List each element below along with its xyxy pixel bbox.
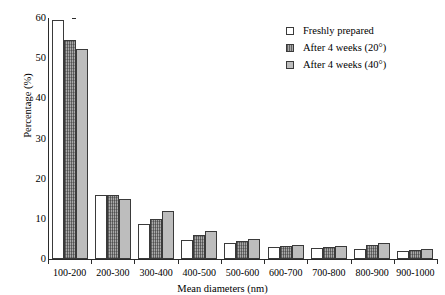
legend-swatch [286, 44, 294, 52]
bar-chart: Percentage (%) 0102030405060 Mean diamet… [0, 0, 445, 295]
x-tick-mark [178, 260, 179, 264]
bar [292, 245, 304, 259]
x-tick-label: 700-800 [312, 267, 345, 278]
bar [268, 247, 280, 259]
legend: Freshly preparedAfter 4 weeks (20°)After… [286, 22, 386, 73]
bar [323, 247, 335, 259]
bar [248, 239, 260, 259]
y-tick-label: 60 [22, 13, 46, 24]
x-tick-mark [394, 260, 395, 264]
bar [236, 241, 248, 259]
legend-item: Freshly prepared [286, 22, 386, 39]
legend-label: After 4 weeks (40°) [303, 59, 386, 70]
x-tick-mark [221, 260, 222, 264]
y-tick-label: 10 [22, 214, 46, 225]
bar [335, 246, 347, 259]
bar [311, 248, 323, 259]
x-axis-line [48, 259, 438, 260]
bar [224, 243, 236, 259]
legend-label: After 4 weeks (20°) [303, 42, 386, 53]
bar [64, 40, 76, 259]
bar [409, 250, 421, 259]
bar [280, 246, 292, 259]
bar [150, 219, 162, 259]
x-tick-mark [307, 260, 308, 264]
bar [354, 249, 366, 259]
bar [378, 243, 390, 259]
x-tick-label: 800-900 [355, 267, 388, 278]
x-tick-mark [134, 260, 135, 264]
x-tick-mark [351, 260, 352, 264]
y-tick-label: 30 [22, 133, 46, 144]
x-tick-mark [437, 260, 438, 264]
y-tick-label: 0 [22, 254, 46, 265]
x-tick-label: 300-400 [139, 267, 172, 278]
bar [162, 211, 174, 259]
x-axis-title: Mean diameters (nm) [0, 283, 445, 294]
x-tick-label: 900-1000 [396, 267, 434, 278]
bar [76, 49, 88, 259]
x-tick-label: 400-500 [183, 267, 216, 278]
bar-group [178, 18, 221, 259]
x-tick-mark [91, 260, 92, 264]
bar-group [134, 18, 177, 259]
bar-group [394, 18, 437, 259]
bar [95, 195, 107, 259]
x-tick-label: 200-300 [96, 267, 129, 278]
legend-swatch [286, 27, 294, 35]
x-tick-label: 100-200 [53, 267, 86, 278]
bar [107, 195, 119, 259]
bar-group [221, 18, 264, 259]
bar [205, 231, 217, 259]
x-tick-mark [48, 260, 49, 264]
bar-group [91, 18, 134, 259]
bar [397, 251, 409, 259]
x-tick-label: 500-600 [226, 267, 259, 278]
bar [193, 235, 205, 259]
y-tick-label: 50 [22, 53, 46, 64]
y-axis-ticks: 0102030405060 [22, 0, 46, 295]
bar [181, 240, 193, 259]
bar [421, 249, 433, 259]
legend-label: Freshly prepared [303, 25, 374, 36]
y-tick-label: 20 [22, 173, 46, 184]
legend-swatch [286, 61, 294, 69]
bar [119, 199, 131, 259]
x-tick-label: 600-700 [269, 267, 302, 278]
bar-group [48, 18, 91, 259]
bar [52, 20, 64, 259]
y-tick-label: 40 [22, 93, 46, 104]
bar [366, 245, 378, 259]
bar [138, 224, 150, 259]
legend-item: After 4 weeks (40°) [286, 56, 386, 73]
legend-item: After 4 weeks (20°) [286, 39, 386, 56]
x-tick-mark [264, 260, 265, 264]
